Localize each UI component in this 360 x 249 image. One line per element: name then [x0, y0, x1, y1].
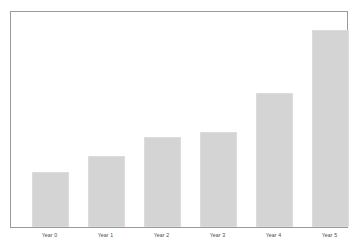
bar: [312, 30, 349, 227]
x-tick-label: Year 4: [247, 231, 300, 239]
bar-chart-figure: Year 0Year 1Year 2Year 3Year 4Year 5: [0, 0, 360, 249]
bar: [200, 132, 237, 227]
plot-area: [10, 11, 348, 228]
bars-layer: [11, 12, 347, 227]
bar: [32, 172, 69, 227]
bar: [144, 137, 181, 227]
bar: [256, 93, 293, 227]
chart-title: [0, 0, 360, 7]
x-tick-label: Year 3: [191, 231, 244, 239]
x-tick-label: Year 0: [23, 231, 76, 239]
x-axis-label-row: Year 0Year 1Year 2Year 3Year 4Year 5: [10, 231, 348, 243]
x-tick-label: Year 1: [79, 231, 132, 239]
x-tick-label: Year 5: [303, 231, 356, 239]
bar: [88, 156, 125, 227]
x-tick-label: Year 2: [135, 231, 188, 239]
